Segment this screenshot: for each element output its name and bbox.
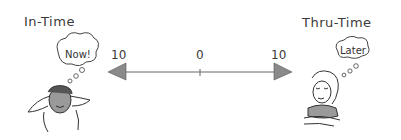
left-thought-text: Now!: [63, 49, 93, 60]
right-arrowhead-icon: [274, 63, 292, 80]
right-thought-text: Later: [338, 45, 368, 56]
scale-center-value: 0: [196, 48, 204, 62]
thru-time-person-icon: [304, 71, 340, 126]
scale-right-value: 10: [271, 48, 286, 62]
thru-time-title: Thru-Time: [302, 15, 372, 30]
in-time-person-icon: [28, 86, 90, 132]
left-arrowhead-icon: [108, 63, 126, 80]
scale-left-value: 10: [111, 48, 126, 62]
in-time-title: In-Time: [24, 14, 75, 29]
